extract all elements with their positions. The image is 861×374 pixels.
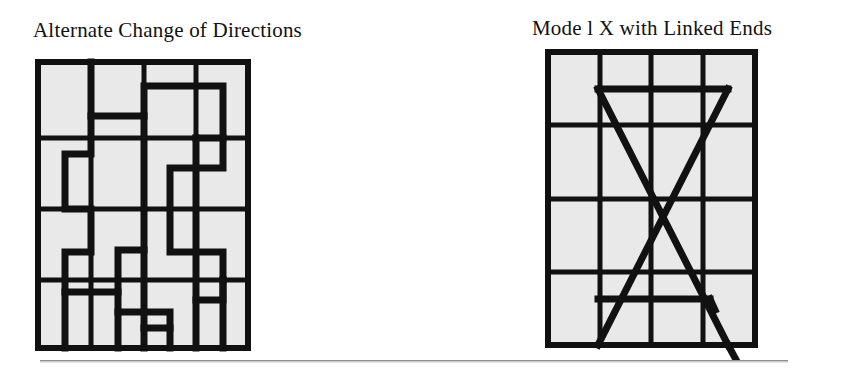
figure-left-title: Alternate Change of Directions xyxy=(33,18,302,42)
figure-right-title: Mode l X with Linked Ends xyxy=(532,16,772,40)
alternate-change-of-directions-figure xyxy=(30,52,260,358)
model-x-with-linked-ends-figure xyxy=(540,42,780,362)
figure-page: Alternate Change of Directions xyxy=(0,0,861,374)
figure-panel-right: Mode l X with Linked Ends xyxy=(430,0,861,374)
figure-panel-left: Alternate Change of Directions xyxy=(0,0,430,374)
page-separator-rule xyxy=(40,360,788,363)
